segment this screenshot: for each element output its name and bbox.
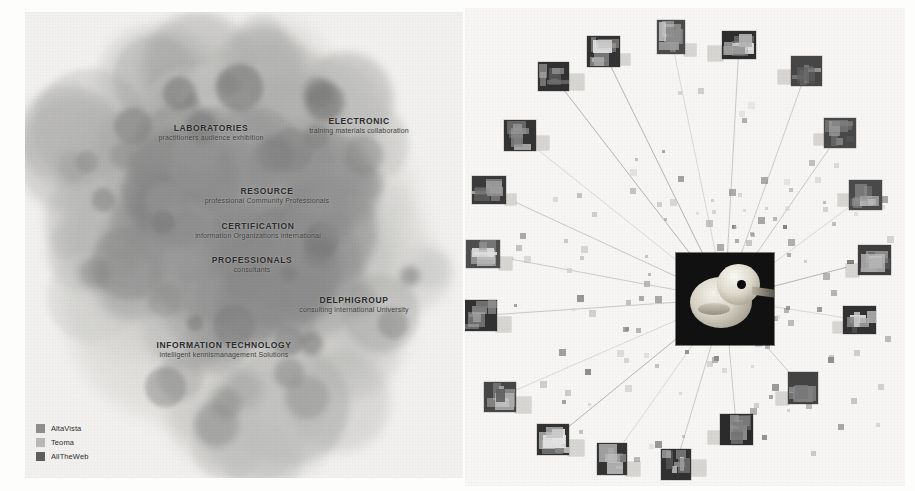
network-node[interactable] [564,239,568,243]
network-node[interactable] [809,160,815,166]
network-node[interactable] [696,212,699,215]
thumbnail-node[interactable] [538,62,569,91]
thumbnail-tag[interactable] [568,440,584,456]
network-node[interactable] [617,350,624,357]
network-node[interactable] [851,398,857,404]
network-node[interactable] [717,244,724,251]
network-node[interactable] [664,218,667,221]
network-node[interactable] [565,390,571,396]
network-node[interactable] [655,364,659,368]
thumbnail-tag[interactable] [535,136,549,150]
thumbnail-node[interactable] [720,414,753,445]
network-node[interactable] [644,281,650,287]
network-node[interactable] [758,217,765,224]
network-node[interactable] [581,246,588,253]
thumbnail-node[interactable] [843,306,876,334]
legend-item[interactable]: AllTheWeb [36,450,88,462]
network-node[interactable] [714,356,719,361]
network-node[interactable] [876,423,880,427]
network-node[interactable] [834,163,839,168]
network-node[interactable] [567,268,572,273]
network-node[interactable] [678,176,684,182]
thumbnail-node[interactable] [465,300,497,331]
network-node[interactable] [678,91,682,95]
legend-item[interactable]: Teoma [36,436,88,448]
network-node[interactable] [729,189,736,196]
thumbnail-node[interactable] [849,180,882,210]
network-node[interactable] [520,233,526,239]
network-node[interactable] [685,350,689,354]
network-node[interactable] [623,327,628,332]
network-node[interactable] [734,226,737,229]
network-node[interactable] [679,392,682,395]
network-node[interactable] [625,385,632,392]
network-node[interactable] [885,336,891,342]
network-node[interactable] [748,102,755,109]
network-node[interactable] [784,179,790,185]
network-node[interactable] [817,307,822,312]
network-node[interactable] [754,403,759,408]
network-node[interactable] [670,199,677,206]
network-node[interactable] [698,88,704,94]
network-node[interactable] [831,290,837,296]
network-node[interactable] [838,424,844,430]
thumbnail-node[interactable] [484,382,516,412]
thumbnail-node[interactable] [722,31,756,59]
network-node[interactable] [761,177,768,184]
network-node[interactable] [630,188,636,194]
network-node[interactable] [580,256,584,260]
thumbnail-node[interactable] [587,36,620,67]
thumbnail-tag[interactable] [619,54,630,65]
network-node[interactable] [682,435,685,438]
network-node[interactable] [644,353,649,358]
network-node[interactable] [789,188,793,192]
thumbnail-node[interactable] [466,240,500,268]
legend-item[interactable]: AltaVista [36,422,88,434]
network-node[interactable] [524,256,531,263]
network-node[interactable] [592,212,597,217]
thumbnail-tag[interactable] [505,194,516,205]
thumbnail-node[interactable] [788,372,818,404]
network-node[interactable] [878,384,884,390]
network-node[interactable] [788,239,795,246]
thumbnail-tag[interactable] [684,44,696,56]
thumbnail-tag[interactable] [515,397,531,413]
network-node[interactable] [655,441,662,448]
network-node[interactable] [823,207,828,212]
network-node[interactable] [762,435,767,440]
network-node[interactable] [516,245,522,251]
network-node[interactable] [828,357,834,363]
network-node[interactable] [887,236,894,243]
network-node[interactable] [649,444,654,449]
network-node[interactable] [553,197,558,202]
thumbnail-node[interactable] [661,449,691,480]
network-node[interactable] [735,239,739,243]
thumbnail-tag[interactable] [778,70,792,84]
network-node[interactable] [655,296,662,303]
network-node[interactable] [854,350,860,356]
network-node[interactable] [772,384,779,391]
network-node[interactable] [585,369,591,375]
thumbnail-node[interactable] [537,424,569,455]
network-node[interactable] [788,320,794,326]
network-node[interactable] [776,315,780,319]
network-node[interactable] [811,451,816,456]
network-node[interactable] [765,207,768,210]
network-node[interactable] [815,177,821,183]
network-node[interactable] [624,358,629,363]
network-node[interactable] [751,365,754,368]
network-node[interactable] [742,118,747,123]
network-node[interactable] [572,308,575,311]
network-node[interactable] [711,199,714,202]
network-node[interactable] [514,304,517,307]
network-node[interactable] [579,430,583,434]
thumbnail-tag[interactable] [499,257,512,270]
thumbnail-tag[interactable] [626,462,640,476]
network-node[interactable] [787,409,790,412]
network-node[interactable] [738,193,742,197]
network-node[interactable] [588,403,591,406]
network-node[interactable] [648,273,651,276]
network-node[interactable] [746,240,752,246]
rubber-duck-photo[interactable] [676,253,774,345]
thumbnail-node[interactable] [597,443,627,475]
